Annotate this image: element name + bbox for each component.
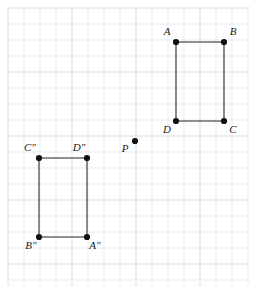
vertex-label-a: A (163, 25, 171, 37)
vertex-label-d: D (162, 123, 171, 135)
vertex-label-c: C (229, 123, 237, 135)
vertex-label-d2: D″ (72, 141, 86, 153)
point-p-label: P (121, 142, 129, 154)
geometry-figure: ABCDC″D″A″B″P (0, 0, 260, 294)
vertex-point-a (173, 39, 179, 45)
vertex-label-a2: A″ (88, 239, 101, 251)
grid-layer (8, 8, 250, 286)
vertex-point-c2 (36, 155, 42, 161)
vertex-point-b2 (36, 234, 42, 240)
vertex-label-b2: B″ (25, 239, 37, 251)
vertex-point-d (173, 118, 179, 124)
vertex-point-b (221, 39, 227, 45)
grid-background (8, 8, 250, 286)
vertex-label-b: B (230, 25, 237, 37)
point-p-dot (132, 138, 138, 144)
vertex-label-c2: C″ (24, 141, 36, 153)
vertex-point-c (221, 118, 227, 124)
figure-canvas: ABCDC″D″A″B″P (0, 0, 260, 294)
vertex-point-d2 (84, 155, 90, 161)
